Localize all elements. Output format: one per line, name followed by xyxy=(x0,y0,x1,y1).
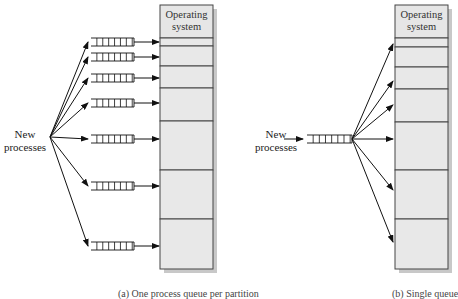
right-partition xyxy=(395,89,448,122)
left-incoming-arrow xyxy=(50,137,88,246)
left-source-label-line1: New xyxy=(0,128,50,141)
right-source-label-line2: processes xyxy=(250,141,302,154)
left-panel-graphics xyxy=(50,5,217,273)
right-partition xyxy=(395,67,448,89)
right-dispatch-arrow xyxy=(352,139,393,190)
right-new-processes-label: New processes xyxy=(250,128,302,154)
left-os-label-line1: Operating xyxy=(160,9,213,21)
right-dispatch-arrow xyxy=(352,44,393,139)
right-os-label-line2: system xyxy=(395,21,448,33)
left-source-label-line2: processes xyxy=(0,141,50,154)
left-new-processes-label: New processes xyxy=(0,128,50,154)
right-partition xyxy=(395,47,448,67)
left-partition xyxy=(160,88,213,121)
right-source-label-line1: New xyxy=(250,128,302,141)
right-os-label: Operating system xyxy=(395,9,448,33)
right-panel-graphics xyxy=(284,5,452,273)
left-os-label-line2: system xyxy=(160,21,213,33)
left-partition xyxy=(160,121,213,170)
left-partition xyxy=(160,170,213,219)
right-partition xyxy=(395,122,448,170)
left-caption: (a) One process queue per partition xyxy=(118,288,259,299)
right-caption: (b) Single queue xyxy=(392,288,458,299)
left-partition xyxy=(160,219,213,269)
left-incoming-arrow xyxy=(50,57,88,137)
right-dispatch-arrow xyxy=(352,139,393,242)
left-incoming-arrow xyxy=(50,42,88,137)
right-partition xyxy=(395,219,448,269)
left-partition xyxy=(160,46,213,66)
left-incoming-arrow xyxy=(50,137,88,186)
right-partition xyxy=(395,170,448,219)
right-os-label-line1: Operating xyxy=(395,9,448,21)
left-partition xyxy=(160,38,213,46)
left-os-label: Operating system xyxy=(160,9,213,33)
left-partition xyxy=(160,66,213,88)
left-incoming-arrow xyxy=(50,137,88,139)
right-partition xyxy=(395,38,448,47)
